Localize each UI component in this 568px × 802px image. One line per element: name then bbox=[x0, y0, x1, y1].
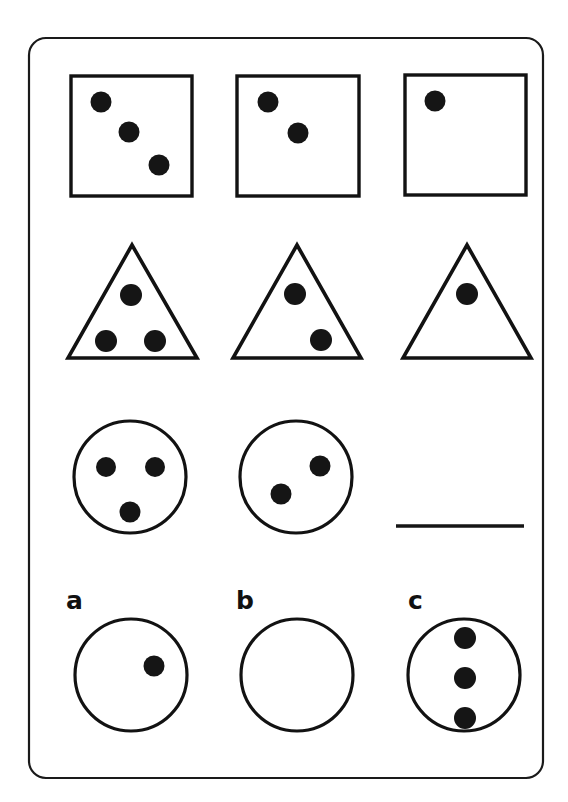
dot bbox=[454, 627, 476, 649]
dot bbox=[120, 502, 141, 523]
option-a[interactable]: a bbox=[66, 586, 187, 731]
dot bbox=[96, 457, 116, 477]
row-circles bbox=[74, 421, 524, 533]
square-cell-2-dots[interactable] bbox=[237, 76, 359, 196]
dot bbox=[288, 123, 309, 144]
option-label-b: b bbox=[236, 586, 254, 615]
dot bbox=[144, 330, 166, 352]
square-cell-1-dot[interactable] bbox=[405, 75, 526, 195]
dot bbox=[310, 329, 332, 351]
dot bbox=[454, 707, 476, 729]
worksheet-canvas: a b c bbox=[0, 0, 568, 802]
option-b[interactable]: b bbox=[236, 586, 353, 731]
row-answer-options: a b c bbox=[66, 586, 520, 731]
dot bbox=[149, 155, 170, 176]
circle-outline bbox=[240, 421, 352, 533]
triangle-cell-2-dots[interactable] bbox=[233, 245, 361, 358]
triangle-cell-3-dots[interactable] bbox=[68, 245, 197, 358]
option-c[interactable]: c bbox=[408, 586, 520, 731]
square-cell-3-dots[interactable] bbox=[71, 76, 192, 196]
dot bbox=[119, 122, 140, 143]
dot bbox=[120, 284, 142, 306]
dot bbox=[144, 656, 165, 677]
dot bbox=[425, 91, 446, 112]
circle-outline bbox=[241, 619, 353, 731]
circle-cell-3-dots[interactable] bbox=[74, 421, 186, 533]
dot bbox=[258, 92, 279, 113]
dot bbox=[91, 92, 112, 113]
dot bbox=[454, 667, 476, 689]
worksheet-page: a b c bbox=[0, 0, 568, 802]
row-squares bbox=[71, 75, 526, 196]
dot bbox=[145, 457, 165, 477]
option-label-a: a bbox=[66, 586, 83, 615]
row-triangles bbox=[68, 245, 531, 358]
option-label-c: c bbox=[408, 586, 423, 615]
dot bbox=[284, 283, 306, 305]
circle-cell-2-dots[interactable] bbox=[240, 421, 352, 533]
dot bbox=[271, 484, 292, 505]
dot bbox=[456, 283, 478, 305]
dot bbox=[95, 330, 117, 352]
triangle-cell-1-dot[interactable] bbox=[403, 245, 531, 358]
square-outline bbox=[405, 75, 526, 195]
circle-outline bbox=[75, 619, 187, 731]
dot bbox=[310, 456, 331, 477]
